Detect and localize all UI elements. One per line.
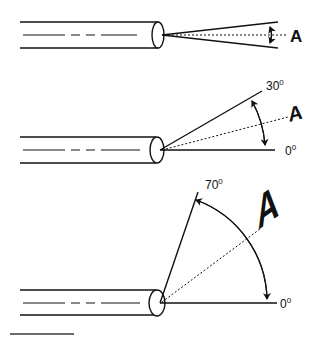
angle-label-30: 300 [266,78,284,93]
diagram-canvas: A 300 00 A [0,0,320,337]
panel-2: 300 00 A [20,78,304,163]
angle-label-0: 00 [280,296,292,311]
angle-rays [160,91,288,150]
target-letter-a: A [290,27,302,46]
panel-1: A [20,22,302,48]
angle-label-0: 00 [285,143,297,158]
angle-arc-arrow [252,101,265,145]
spread-arrow [270,27,272,43]
target-letter-a: A [287,100,303,126]
tube [20,22,164,48]
emission-cone [162,22,288,48]
tube [20,137,164,163]
panel-3: 700 00 A [20,174,292,316]
angle-label-70: 700 [205,177,223,192]
tube [20,290,165,316]
target-letter-a: A [254,174,280,240]
